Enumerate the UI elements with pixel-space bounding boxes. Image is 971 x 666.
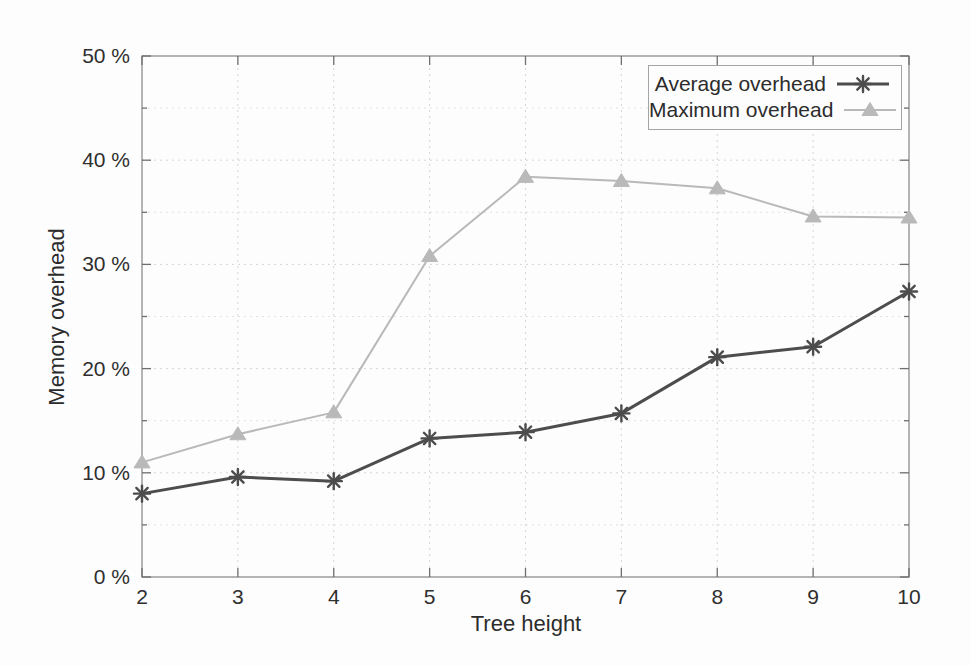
x-tick-label: 5 — [400, 584, 460, 610]
y-tick-label: 20 % — [60, 356, 130, 382]
triangle-line-sample-icon — [842, 98, 898, 122]
asterisk-line-sample-icon — [835, 72, 891, 96]
y-tick-label: 10 % — [60, 460, 130, 486]
legend-item: Maximum overhead — [649, 97, 901, 123]
y-tick-label: 50 % — [60, 43, 130, 69]
memory-overhead-chart: 0 %10 %20 %30 %40 %50 % 2345678910 Memor… — [0, 0, 971, 666]
legend-item: Average overhead — [649, 71, 901, 97]
y-tick-label: 30 % — [60, 251, 130, 277]
x-tick-label: 10 — [879, 584, 939, 610]
legend-label: Maximum overhead — [649, 97, 833, 123]
x-tick-label: 2 — [112, 584, 172, 610]
legend-label: Average overhead — [649, 71, 826, 97]
x-tick-label: 6 — [496, 584, 556, 610]
x-axis-title: Tree height — [416, 611, 636, 637]
x-tick-label: 9 — [783, 584, 843, 610]
y-axis-title-text: Memory overhead — [44, 228, 70, 405]
x-tick-label: 3 — [208, 584, 268, 610]
x-tick-label: 4 — [304, 584, 364, 610]
y-tick-label: 40 % — [60, 147, 130, 173]
legend: Average overhead Maximum overhead — [648, 65, 902, 130]
x-tick-label: 7 — [591, 584, 651, 610]
x-tick-label: 8 — [687, 584, 747, 610]
